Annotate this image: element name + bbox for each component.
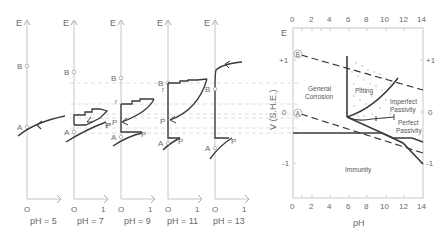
- marker-p: P: [231, 137, 236, 146]
- region-immunity: Immunity: [345, 166, 372, 174]
- y-axis-title: V (S.H.E.): [268, 89, 278, 130]
- diagram-canvas: E B A O pH = 5 E B A P O 1 pH = 7 E: [0, 0, 445, 239]
- marker-p-lower: P: [141, 130, 146, 139]
- one-label: 1: [195, 205, 200, 214]
- line-marker-b: B: [296, 51, 300, 58]
- svg-text:4: 4: [327, 202, 332, 211]
- marker-a: A: [205, 144, 211, 153]
- marker-p-lower: P: [178, 137, 183, 146]
- y-tick-plus1-right: +1: [426, 56, 436, 65]
- region-general-corrosion-2: Corrosion: [305, 93, 334, 100]
- y-tick-0-right: 0: [428, 108, 433, 117]
- marker-a: A: [158, 139, 164, 148]
- svg-text:8: 8: [364, 202, 369, 211]
- marker-a: A: [111, 133, 117, 142]
- region-pitting: Pitting: [355, 87, 373, 95]
- panel-caption: pH = 9: [124, 216, 151, 226]
- marker-b: B: [111, 74, 116, 83]
- y-tick-plus1-left: +1: [279, 56, 289, 65]
- marker-a: A: [17, 123, 23, 132]
- svg-text:0: 0: [290, 202, 295, 211]
- x-axis-title: pH: [353, 218, 365, 228]
- y-axis-label: E: [110, 18, 116, 28]
- marker-p: P: [112, 118, 117, 127]
- panel-ph7: E B A P O 1 pH = 7: [63, 18, 110, 226]
- svg-text:10: 10: [380, 202, 389, 211]
- svg-text:12: 12: [399, 202, 408, 211]
- origin-label: O: [24, 205, 30, 214]
- svg-text:2: 2: [309, 202, 314, 211]
- y-axis-label: E: [204, 18, 210, 28]
- region-general-corrosion-1: General: [308, 85, 332, 92]
- panel-ph13: E B A P O 1 pH = 13: [204, 18, 249, 226]
- svg-text:6: 6: [346, 15, 351, 24]
- svg-text:4: 4: [327, 15, 332, 24]
- panel-caption: pH = 7: [77, 216, 104, 226]
- one-label: 1: [242, 205, 247, 214]
- panel-caption: pH = 13: [213, 216, 245, 226]
- marker-r: r: [115, 98, 118, 105]
- panel-ph9: E B A r P P P O 1 pH = 9: [106, 18, 155, 226]
- origin-label: O: [71, 205, 77, 214]
- y-tick-minus1-right: -1: [426, 159, 434, 168]
- one-label: 1: [101, 205, 106, 214]
- region-perfect-passivity-1: Perfect: [398, 119, 419, 126]
- y-tick-minus1-left: -1: [282, 159, 290, 168]
- panel-caption: pH = 11: [167, 216, 198, 226]
- line-marker-a: A: [296, 110, 301, 117]
- svg-text:10: 10: [380, 15, 389, 24]
- panel-ph5: E B A O pH = 5: [16, 18, 65, 226]
- svg-text:12: 12: [399, 15, 408, 24]
- region-imperfect-passivity-2: Passivity: [390, 106, 416, 114]
- top-x-ticks: 0 2 4 6 8 10 12 14: [290, 15, 426, 24]
- origin-label: O: [212, 205, 218, 214]
- origin-label: O: [118, 205, 124, 214]
- origin-label: O: [165, 205, 171, 214]
- y-axis-label: E: [157, 18, 163, 28]
- svg-text:6: 6: [346, 202, 351, 211]
- pourbaix-e-label: E: [281, 28, 287, 38]
- marker-b: B: [64, 68, 69, 77]
- svg-text:0: 0: [290, 15, 295, 24]
- y-axis-label: E: [63, 18, 69, 28]
- panel-caption: pH = 5: [30, 216, 57, 226]
- marker-b: B: [205, 85, 210, 94]
- pourbaix-diagram: 0 2 4 6 8 10 12 14 0 2 4 6 8 10 12 14: [268, 15, 436, 228]
- bottom-x-ticks: 0 2 4 6 8 10 12 14: [290, 202, 426, 211]
- svg-text:2: 2: [309, 15, 314, 24]
- marker-p-left: P: [106, 121, 111, 130]
- region-perfect-passivity-2: Passivity: [396, 127, 422, 135]
- svg-text:14: 14: [417, 15, 426, 24]
- y-tick-0-left: 0: [282, 108, 287, 117]
- marker-b: B: [17, 62, 22, 71]
- y-axis-label: E: [16, 18, 22, 28]
- region-imperfect-passivity-1: Imperfect: [390, 98, 417, 106]
- panel-ph11: E B r P A P O 1 pH = 11: [157, 18, 207, 226]
- marker-a: A: [64, 128, 70, 137]
- svg-text:8: 8: [364, 15, 369, 24]
- one-label: 1: [148, 205, 153, 214]
- marker-p: P: [160, 117, 165, 126]
- svg-text:14: 14: [417, 202, 426, 211]
- marker-r: r: [162, 86, 165, 93]
